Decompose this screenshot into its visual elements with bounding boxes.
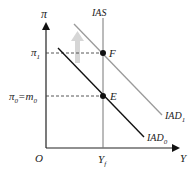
iad0-line <box>58 48 144 137</box>
point-f <box>100 50 106 56</box>
ias-label: IAS <box>91 7 106 18</box>
shift-up-arrow-icon <box>71 31 84 63</box>
x-axis-label: Y <box>180 152 188 164</box>
origin-label: O <box>35 152 43 164</box>
point-e <box>100 93 106 99</box>
point-e-label: E <box>109 90 117 102</box>
iad0-label: IAD0 <box>146 132 168 146</box>
iad1-label: IAD1 <box>164 110 185 124</box>
y-axis-label: π <box>41 7 48 21</box>
pi0-label: π0=m0 <box>9 90 37 105</box>
pi1-label: π1 <box>31 46 40 61</box>
yf-label: Yf <box>98 153 107 168</box>
point-f-label: F <box>108 47 116 59</box>
iad-ias-diagram: π IAS π1 π0=m0 F E IAD1 IAD0 O Yf Y <box>0 0 190 173</box>
iad1-line <box>74 24 162 115</box>
